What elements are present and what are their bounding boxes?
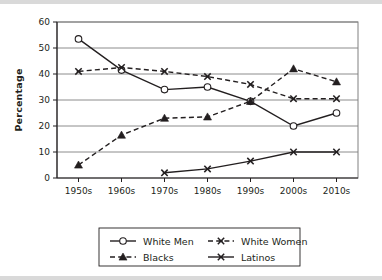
x-axis-ticks: 1950s1960s1970s1980s1990s2000s2010s [65,178,351,196]
y-tick-label: 20 [39,121,51,131]
legend-label: Blacks [143,252,174,263]
data-point [204,84,211,91]
data-point [75,161,83,168]
y-tick-label: 0 [44,173,50,183]
data-point [161,86,168,93]
data-point [333,96,339,102]
data-point [118,131,126,138]
data-series-layer [75,36,341,176]
y-axis-title: Percentage [13,68,24,131]
data-point [333,110,340,117]
x-tick-label: 1960s [108,186,136,196]
y-tick-label: 50 [39,43,51,53]
x-tick-label: 1990s [237,186,265,196]
y-axis-ticks: 0102030405060 [39,17,57,183]
x-tick-label: 2010s [323,186,351,196]
x-tick-label: 1950s [65,186,93,196]
y-tick-label: 10 [39,147,51,157]
x-tick-label: 1980s [194,186,222,196]
legend-swatch-marker [120,238,127,245]
series-latinos [161,149,339,176]
series-line [165,152,337,173]
data-point [290,123,297,130]
data-point [75,36,82,43]
data-point [247,81,253,87]
chart-figure: 0102030405060 1950s1960s1970s1980s1990s2… [0,0,382,280]
y-tick-label: 30 [39,95,51,105]
legend-label: White Women [241,236,307,247]
series-white-women [75,64,339,102]
legend-label: Latinos [241,252,275,263]
x-tick-label: 1970s [151,186,179,196]
legend-label: White Men [143,236,194,247]
y-tick-label: 40 [39,69,51,79]
data-point [290,96,296,102]
x-tick-label: 2000s [280,186,308,196]
data-point [290,65,298,72]
bottom-band [0,276,382,280]
top-band [0,0,382,4]
line-chart: 0102030405060 1950s1960s1970s1980s1990s2… [0,0,382,280]
y-tick-label: 60 [39,17,51,27]
